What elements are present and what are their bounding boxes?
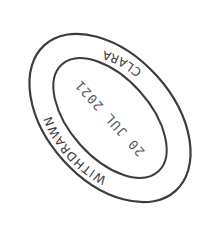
- stamp-top-text: WITHDRAWN: [34, 110, 112, 193]
- withdrawn-stamp: WITHDRAWN CLARA 20 JUL 2021: [0, 0, 213, 227]
